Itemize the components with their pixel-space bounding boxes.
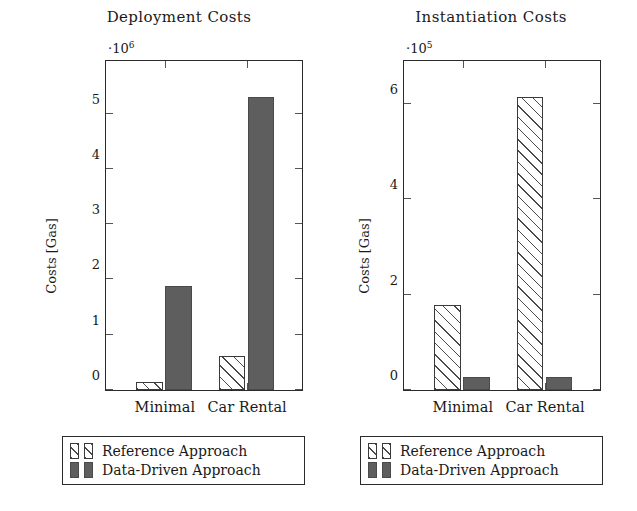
y-tick-2-right [295, 278, 302, 279]
legend-row-data-driven: Data-Driven Approach [368, 460, 592, 479]
legend-label-data-driven: Data-Driven Approach [102, 462, 261, 478]
legend-row-reference: Reference Approach [368, 441, 592, 460]
x-tick-label-car-rental: Car Rental [505, 399, 584, 415]
y-tick-3-right [295, 223, 302, 224]
y-tick-label-5: 5 [92, 91, 100, 106]
y-tick-6 [404, 103, 411, 104]
y-tick-label-2: 2 [92, 257, 100, 272]
plot-area: 0 2 4 6 Minimal Car Rental [403, 60, 601, 391]
legend-row-data-driven: Data-Driven Approach [70, 460, 294, 479]
exponent-base: ·10 [108, 41, 129, 56]
y-tick-2-right [593, 294, 600, 295]
y-tick-0-right [593, 389, 600, 390]
chart-panel-instantiation-costs: Instantiation Costs Costs [Gas] ·105 0 2… [318, 0, 636, 511]
exponent-power: 6 [129, 40, 135, 50]
y-tick-5 [106, 113, 113, 114]
x-tick-car-rental-top [247, 61, 248, 68]
x-tick-car-rental-top [545, 61, 546, 68]
bar-minimal-data-driven [165, 286, 191, 390]
y-axis-label: Costs [Gas] [357, 218, 372, 293]
y-axis-exponent: ·105 [406, 40, 432, 56]
y-tick-label-0: 0 [390, 368, 398, 383]
y-tick-5-right [295, 113, 302, 114]
legend-swatch-reference-a [70, 443, 79, 459]
x-tick-label-minimal: Minimal [433, 399, 494, 415]
x-tick-label-minimal: Minimal [135, 399, 196, 415]
y-tick-1-right [295, 334, 302, 335]
legend-swatch-data-driven-b [84, 462, 93, 478]
bar-minimal-reference [434, 305, 460, 390]
legend-label-data-driven: Data-Driven Approach [400, 462, 559, 478]
y-tick-label-4: 4 [92, 146, 100, 161]
chart-panel-deployment-costs: Deployment Costs Costs [Gas] ·106 0 1 2 … [0, 0, 318, 511]
y-tick-3 [106, 223, 113, 224]
y-tick-label-0: 0 [92, 368, 100, 383]
y-tick-4-right [295, 168, 302, 169]
y-tick-4-right [593, 198, 600, 199]
bar-minimal-data-driven [463, 377, 489, 390]
exponent-base: ·10 [406, 41, 427, 56]
y-tick-0 [106, 389, 113, 390]
x-tick-label-car-rental: Car Rental [207, 399, 286, 415]
y-tick-6-right [593, 103, 600, 104]
x-tick-minimal-top [165, 61, 166, 68]
y-tick-label-3: 3 [92, 202, 100, 217]
y-tick-0 [404, 389, 411, 390]
legend-swatch-data-driven-a [368, 462, 377, 478]
plot-inner: 0 1 2 3 4 5 Minimal [106, 61, 302, 390]
y-tick-0-right [295, 389, 302, 390]
plot-inner: 0 2 4 6 Minimal Car Rental [404, 61, 600, 390]
y-tick-label-1: 1 [92, 312, 100, 327]
legend-swatch-data-driven-b [382, 462, 391, 478]
chart-title: Instantiation Costs [318, 8, 636, 26]
legend-swatch-reference-b [84, 443, 93, 459]
plot-area: 0 1 2 3 4 5 Minimal [105, 60, 303, 391]
figure-two-bar-charts: Deployment Costs Costs [Gas] ·106 0 1 2 … [0, 0, 637, 511]
chart-title: Deployment Costs [0, 8, 318, 26]
y-axis-exponent: ·106 [108, 40, 134, 56]
legend-label-reference: Reference Approach [400, 443, 545, 459]
bar-car-rental-reference [517, 97, 543, 390]
legend: Reference Approach Data-Driven Approach [62, 436, 305, 485]
legend-swatch-data-driven-a [70, 462, 79, 478]
legend: Reference Approach Data-Driven Approach [360, 436, 603, 485]
legend-row-reference: Reference Approach [70, 441, 294, 460]
y-tick-label-4: 4 [390, 177, 398, 192]
bar-car-rental-data-driven [248, 97, 274, 390]
y-tick-2 [404, 294, 411, 295]
exponent-power: 5 [427, 40, 433, 50]
bar-car-rental-reference [219, 356, 245, 390]
y-tick-4 [404, 198, 411, 199]
y-tick-2 [106, 278, 113, 279]
legend-swatch-reference-b [382, 443, 391, 459]
legend-label-reference: Reference Approach [102, 443, 247, 459]
y-tick-1 [106, 334, 113, 335]
y-axis-label: Costs [Gas] [44, 218, 59, 293]
y-tick-label-2: 2 [390, 272, 398, 287]
y-tick-4 [106, 168, 113, 169]
bar-car-rental-data-driven [546, 377, 572, 390]
bar-minimal-reference [136, 382, 162, 390]
y-tick-label-6: 6 [390, 81, 398, 96]
legend-swatch-reference-a [368, 443, 377, 459]
x-tick-minimal-top [463, 61, 464, 68]
